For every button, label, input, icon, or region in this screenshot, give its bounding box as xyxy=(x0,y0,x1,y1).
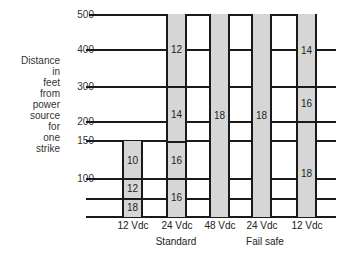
bar-12vdc-standard: 10 12 18 xyxy=(122,141,143,217)
segment-label: 10 xyxy=(124,155,141,166)
segment-label: 18 xyxy=(298,168,315,179)
segment-label: 16 xyxy=(168,155,185,166)
bar-24vdc-failsafe: 18 xyxy=(251,14,272,217)
bar-48vdc: 18 xyxy=(209,14,230,217)
segment-divider xyxy=(124,198,141,200)
segment-divider xyxy=(168,86,185,88)
segment-divider xyxy=(124,178,141,180)
x-label-12vdc-failsafe: 12 Vdc xyxy=(282,220,332,231)
bar-12vdc-failsafe: 14 16 18 xyxy=(296,14,317,217)
segment-label: 12 xyxy=(124,183,141,194)
segment-label: 18 xyxy=(124,202,141,213)
segment-divider xyxy=(298,121,315,123)
segment-label: 16 xyxy=(298,98,315,109)
segment-divider xyxy=(168,178,185,180)
x-label-24vdc-failsafe: 24 Vdc xyxy=(237,220,287,231)
group-label-failsafe: Fail safe xyxy=(225,236,305,247)
group-label-standard: Standard xyxy=(136,236,216,247)
segment-label: 18 xyxy=(211,110,228,121)
segment-label: 18 xyxy=(253,110,270,121)
segment-label: 16 xyxy=(168,192,185,203)
segment-divider xyxy=(168,141,185,143)
segment-label: 14 xyxy=(298,45,315,56)
segment-label: 14 xyxy=(168,109,185,120)
x-label-12vdc-standard: 12 Vdc xyxy=(108,220,158,231)
segment-divider xyxy=(298,86,315,88)
bar-24vdc-standard: 12 14 16 16 xyxy=(166,14,187,217)
segment-label: 12 xyxy=(168,44,185,55)
gridline-500 xyxy=(89,14,317,16)
y-axis-title: Distance in feet from power source for o… xyxy=(10,55,60,154)
